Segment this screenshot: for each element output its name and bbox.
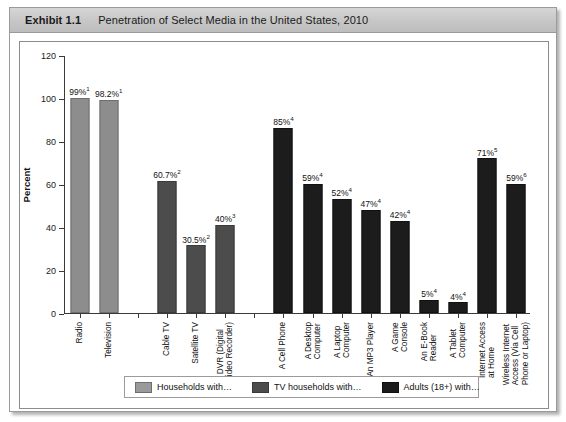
x-axis-category-label: Satellite TV (191, 322, 200, 364)
x-axis-tick (371, 313, 372, 318)
bar-value-label: 42%4 (390, 208, 410, 220)
bar-value-label: 60.7%2 (153, 168, 181, 180)
bar-value-label: 47%4 (361, 197, 381, 209)
bar-value-label: 4%4 (450, 290, 466, 302)
y-axis-tick (59, 142, 64, 143)
x-axis-tick (225, 313, 226, 318)
x-axis-line (64, 313, 530, 314)
y-axis-tick-label: 80 (46, 137, 56, 147)
bar-value-label: 59%4 (302, 171, 322, 183)
legend-swatch-icon (252, 382, 269, 393)
y-axis-tick (59, 185, 64, 186)
y-axis-tick (59, 271, 64, 272)
y-axis-tick (59, 56, 64, 57)
bar-slot: 52%4A Laptop Computer (327, 56, 356, 313)
y-axis-label: Percent (21, 168, 32, 203)
bar-value-label: 52%4 (331, 186, 351, 198)
bar (99, 100, 118, 313)
x-axis-category-label: An E-Book Reader (420, 322, 439, 361)
x-axis-tick (138, 313, 139, 318)
bar-slot: 4%4A Tablet Computer (444, 56, 473, 313)
bar (449, 302, 468, 313)
bar (332, 199, 351, 313)
legend-swatch-icon (135, 382, 152, 393)
x-axis-tick (342, 313, 343, 318)
x-axis-tick (516, 313, 517, 318)
bar (274, 128, 293, 313)
x-axis-category-label: A Tablet Computer (449, 322, 468, 358)
y-axis-tick-label: 100 (41, 94, 56, 104)
y-axis-tick (59, 99, 64, 100)
empty-slot (240, 56, 269, 313)
empty-slot (123, 56, 152, 313)
bar-slot: 85%4A Cell Phone (269, 56, 298, 313)
x-axis-category-label: An MP3 Player (366, 322, 375, 377)
legend-item-households: Households with… (135, 382, 232, 393)
chart-panel: Percent 020406080100120 99%1Radio98.2%1T… (19, 41, 549, 409)
bar (420, 300, 439, 313)
bar (478, 158, 497, 313)
bar (70, 98, 89, 313)
bar-value-label: 40%3 (215, 212, 235, 224)
x-axis-tick (254, 313, 255, 318)
plot-area: Percent 020406080100120 99%1Radio98.2%1T… (64, 56, 530, 314)
bar-series: 99%1Radio98.2%1Television60.7%2Cable TV3… (65, 56, 530, 313)
x-axis-category-label: Wireless Internet Access (Via Cell Phone… (502, 322, 530, 385)
bar (507, 184, 526, 313)
bar-value-label: 30.5%2 (182, 233, 210, 245)
x-axis-category-label: A Cell Phone (279, 322, 288, 369)
x-axis-category-label: A Laptop Computer (332, 322, 351, 358)
exhibit-title: Penetration of Select Media in the Unite… (98, 14, 368, 26)
legend-swatch-icon (382, 382, 399, 393)
exhibit-screenshot: Exhibit 1.1 Penetration of Select Media … (0, 0, 566, 422)
bar-slot: 30.5%2Satellite TV (182, 56, 211, 313)
x-axis-tick (196, 313, 197, 318)
bar-slot: 42%4A Game Console (385, 56, 414, 313)
chart-legend: Households with… TV households with… Adu… (124, 376, 479, 398)
x-axis-category-label: Television (104, 322, 113, 358)
legend-label: TV households with… (274, 382, 362, 392)
x-axis-tick (313, 313, 314, 318)
x-axis-tick (429, 313, 430, 318)
bar (157, 181, 176, 314)
bar-slot: 98.2%1Television (94, 56, 123, 313)
bar (187, 245, 206, 313)
y-axis-tick-label: 120 (41, 51, 56, 61)
x-axis-category-label: Cable TV (162, 322, 171, 356)
bar-slot: 99%1Radio (65, 56, 94, 313)
x-axis-tick (109, 313, 110, 318)
bar-value-label: 59%6 (506, 171, 526, 183)
x-axis-category-label: A DVR (Digital Video Recorder) (216, 322, 235, 381)
bar-slot: 47%4An MP3 Player (356, 56, 385, 313)
x-axis-tick (487, 313, 488, 318)
bar-slot: 40%3A DVR (Digital Video Recorder) (211, 56, 240, 313)
exhibit-frame: Exhibit 1.1 Penetration of Select Media … (9, 7, 557, 412)
bar-value-label: 71%5 (477, 146, 497, 158)
legend-item-tv-households: TV households with… (252, 382, 362, 393)
x-axis-tick (283, 313, 284, 318)
bar-slot: 5%4An E-Book Reader (415, 56, 444, 313)
bar (390, 221, 409, 313)
x-axis-category-label: A Game Console (391, 322, 410, 352)
bar-slot: 71%5Internet Access at Home (473, 56, 502, 313)
bar-slot: 59%6Wireless Internet Access (Via Cell P… (502, 56, 531, 313)
bar-value-label: 5%4 (421, 287, 437, 299)
bar (303, 184, 322, 313)
y-axis-tick-label: 20 (46, 266, 56, 276)
y-axis-tick-label: 0 (51, 309, 56, 319)
x-axis-tick (458, 313, 459, 318)
exhibit-number: Exhibit 1.1 (25, 14, 81, 26)
x-axis-category-label: Internet Access at Home (478, 322, 497, 378)
bar (361, 210, 380, 313)
y-axis-tick (59, 228, 64, 229)
x-axis-tick (80, 313, 81, 318)
x-axis-category-label: Radio (75, 322, 84, 343)
x-axis-tick (400, 313, 401, 318)
bar-slot: 59%4A Desktop Computer (298, 56, 327, 313)
legend-label: Households with… (157, 382, 232, 392)
x-axis-tick (167, 313, 168, 318)
y-axis-tick (59, 314, 64, 315)
bar-slot: 60.7%2Cable TV (152, 56, 181, 313)
y-axis-tick-label: 60 (46, 180, 56, 190)
exhibit-header: Exhibit 1.1 Penetration of Select Media … (10, 8, 556, 33)
